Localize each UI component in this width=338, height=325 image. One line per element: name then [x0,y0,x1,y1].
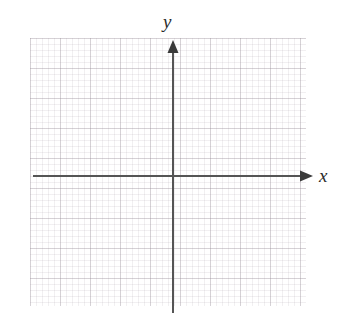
axes-layer [0,0,338,325]
y-axis-label: y [163,12,171,31]
x-axis-arrowhead-icon [300,171,313,182]
y-axis-arrowhead-icon [168,40,179,53]
x-axis-label: x [319,166,327,185]
coordinate-grid-figure: y x [0,0,338,325]
